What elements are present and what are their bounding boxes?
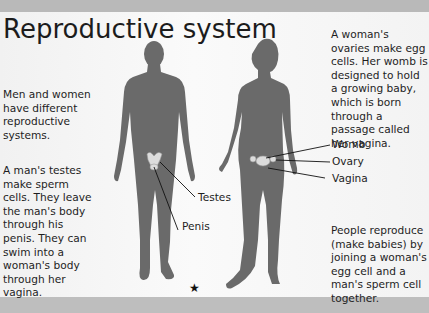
star-icon: ★ (189, 281, 200, 295)
male-description: A man's testes make sperm cells. They le… (3, 164, 93, 300)
intro-text: Men and women have different reproductiv… (3, 88, 103, 142)
reproduction-description: People reproduce (make babies) by joinin… (331, 224, 429, 306)
label-ovary: Ovary (332, 155, 364, 167)
label-penis: Penis (182, 220, 210, 232)
page-title: Reproductive system (3, 14, 277, 44)
female-description: A woman's ovaries make egg cells. Her wo… (331, 28, 429, 150)
label-womb: Womb (332, 138, 365, 150)
label-testes: Testes (198, 191, 231, 203)
label-vagina: Vagina (332, 172, 368, 184)
